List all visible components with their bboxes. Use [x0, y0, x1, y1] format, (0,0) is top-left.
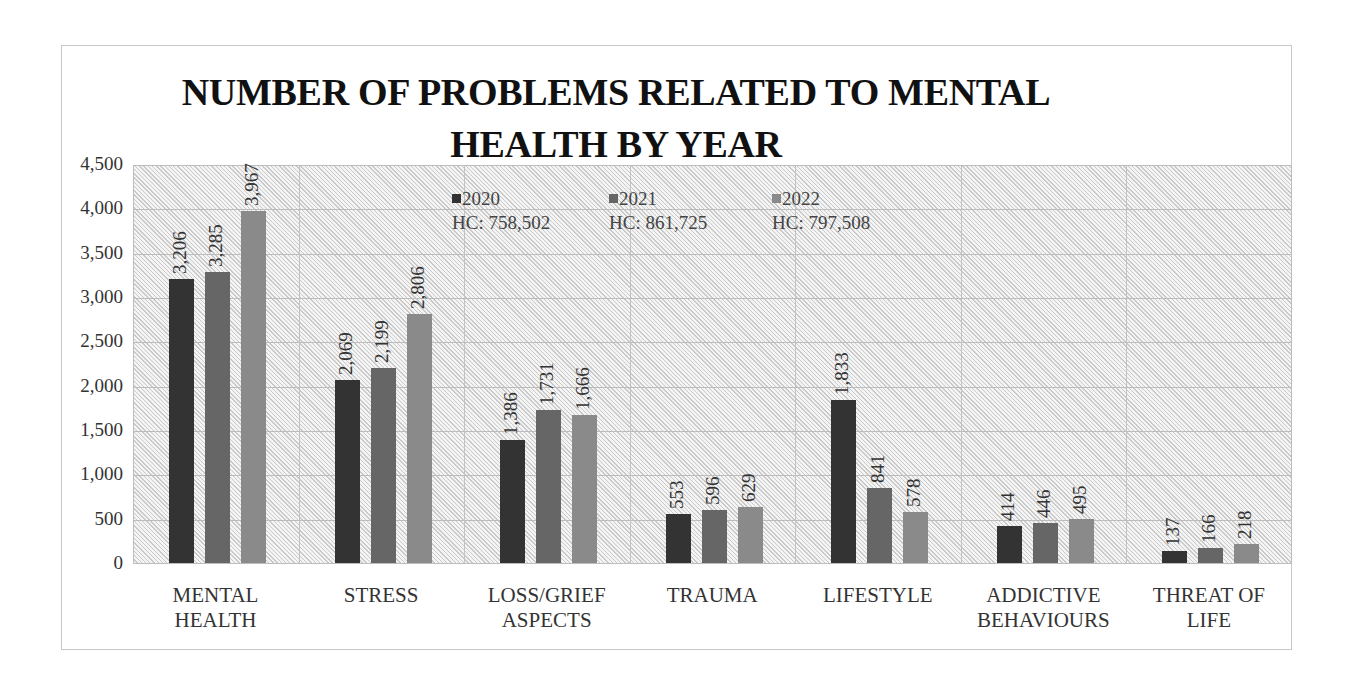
data-label: 1,666: [573, 368, 593, 411]
bar-2020: [169, 279, 194, 563]
bar-2021: [536, 410, 561, 563]
bar-2020: [500, 440, 525, 563]
bar-2020: [831, 400, 856, 563]
legend-hc-label: HC: 861,725: [609, 212, 707, 234]
data-label: 137: [1163, 517, 1183, 546]
data-label: 3,206: [170, 231, 190, 274]
bar-2020: [1162, 551, 1187, 563]
bar-2021: [867, 488, 892, 563]
legend-hc-label: HC: 797,508: [772, 212, 870, 234]
legend-year-label: 2021: [619, 188, 657, 210]
legend-year-label: 2022: [782, 188, 820, 210]
category-label: LIFESTYLE: [795, 583, 960, 608]
horizontal-gridline: [134, 387, 1291, 388]
bar-2022: [407, 314, 432, 563]
bar-2020: [997, 526, 1022, 563]
bar-2021: [1198, 548, 1223, 563]
y-tick-label: 1,500: [43, 420, 123, 440]
data-label: 596: [703, 477, 723, 506]
category-label: TRAUMA: [630, 583, 795, 608]
category-label: STRESS: [299, 583, 464, 608]
bar-2022: [241, 211, 266, 563]
data-label: 414: [998, 493, 1018, 522]
bar-2021: [1033, 523, 1058, 563]
data-label: 2,199: [372, 320, 392, 363]
data-label: 3,967: [242, 164, 262, 207]
chart-title-line-2: HEALTH BY YEAR: [61, 118, 1171, 170]
chart-title-line-1: NUMBER OF PROBLEMS RELATED TO MENTAL: [61, 66, 1171, 118]
data-label: 1,731: [537, 362, 557, 405]
category-label-line: LIFESTYLE: [795, 583, 960, 608]
y-tick-label: 0: [43, 553, 123, 573]
y-tick-label: 3,500: [43, 243, 123, 263]
data-label: 3,285: [206, 224, 226, 267]
y-tick-label: 4,500: [43, 154, 123, 174]
horizontal-gridline: [134, 254, 1291, 255]
category-label-line: TRAUMA: [630, 583, 795, 608]
data-label: 166: [1199, 515, 1219, 544]
bar-2021: [371, 368, 396, 563]
bar-2020: [666, 514, 691, 563]
y-tick-label: 3,000: [43, 287, 123, 307]
legend-year-label: 2020: [462, 188, 500, 210]
data-label: 629: [739, 474, 759, 503]
data-label: 1,386: [501, 392, 521, 435]
y-tick-label: 4,000: [43, 198, 123, 218]
category-label-line: MENTAL: [133, 583, 298, 608]
bar-2021: [205, 272, 230, 563]
category-label-line: LIFE: [1126, 608, 1291, 633]
y-tick-label: 500: [43, 509, 123, 529]
vertical-gridline: [299, 166, 300, 563]
data-label: 578: [904, 478, 924, 507]
category-label: ADDICTIVEBEHAVIOURS: [961, 583, 1126, 633]
category-label-line: THREAT OF: [1126, 583, 1291, 608]
vertical-gridline: [961, 166, 962, 563]
y-tick-label: 1,000: [43, 464, 123, 484]
legend-swatch-icon: [772, 194, 781, 203]
horizontal-gridline: [134, 298, 1291, 299]
y-tick-label: 2,000: [43, 376, 123, 396]
bar-2022: [903, 512, 928, 563]
category-label-line: LOSS/GRIEF: [464, 583, 629, 608]
data-label: 553: [667, 480, 687, 509]
bar-2020: [335, 380, 360, 563]
y-tick-label: 2,500: [43, 331, 123, 351]
data-label: 218: [1235, 510, 1255, 539]
category-label: LOSS/GRIEFASPECTS: [464, 583, 629, 633]
horizontal-gridline: [134, 209, 1291, 210]
category-label: THREAT OFLIFE: [1126, 583, 1291, 633]
legend-swatch-icon: [452, 194, 461, 203]
category-label-line: STRESS: [299, 583, 464, 608]
data-label: 495: [1070, 486, 1090, 515]
category-label: MENTALHEALTH: [133, 583, 298, 633]
bar-2021: [702, 510, 727, 563]
horizontal-gridline: [134, 342, 1291, 343]
category-label-line: ADDICTIVE: [961, 583, 1126, 608]
data-label: 446: [1034, 490, 1054, 519]
legend-swatch-icon: [609, 194, 618, 203]
bar-2022: [572, 415, 597, 563]
category-label-line: HEALTH: [133, 608, 298, 633]
category-label-line: BEHAVIOURS: [961, 608, 1126, 633]
bar-2022: [1069, 519, 1094, 563]
data-label: 1,833: [832, 353, 852, 396]
category-label-line: ASPECTS: [464, 608, 629, 633]
legend-hc-label: HC: 758,502: [452, 212, 550, 234]
bar-2022: [1234, 544, 1259, 563]
data-label: 2,069: [336, 332, 356, 375]
horizontal-gridline: [134, 431, 1291, 432]
vertical-gridline: [1126, 166, 1127, 563]
data-label: 2,806: [408, 266, 428, 309]
data-label: 841: [868, 455, 888, 484]
bar-2022: [738, 507, 763, 563]
chart-title: NUMBER OF PROBLEMS RELATED TO MENTAL HEA…: [61, 66, 1171, 170]
